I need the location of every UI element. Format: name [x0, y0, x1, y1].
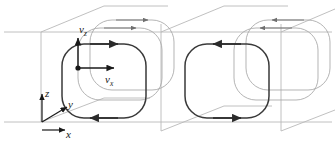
box-diagonal-bottom-right: [281, 110, 335, 131]
box-diagonal-top-middle: [161, 6, 224, 32]
velocity-vectors: vz vx: [75, 23, 114, 88]
axis-label-z: z: [44, 87, 50, 99]
coordinate-triad: z y x: [42, 87, 73, 140]
roll-2-ghost-far: [246, 20, 330, 90]
roll-2-streamline: [185, 44, 269, 118]
diagram-canvas: vz vx z y x: [0, 0, 335, 143]
roll-1-streamline: [62, 44, 146, 118]
convection-roll-diagram: vz vx z y x: [0, 0, 335, 143]
roll-1-ghost-arrows: [104, 20, 148, 28]
velocity-label-vx: vx: [105, 73, 114, 88]
axis-y-arrow: [42, 107, 67, 122]
roll-2-arrows: [213, 44, 241, 118]
velocity-label-vz: vz: [79, 23, 87, 38]
roll-2-ghost-arrows: [260, 20, 304, 28]
axis-label-y: y: [67, 98, 73, 110]
axis-label-x: x: [65, 128, 71, 140]
box-frame: [4, 6, 335, 131]
box-diagonal-top-right: [281, 9, 335, 32]
